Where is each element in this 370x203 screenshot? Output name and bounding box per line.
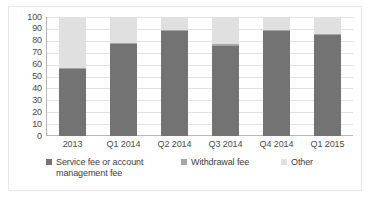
- bar-segment[interactable]: [59, 69, 86, 136]
- legend-item[interactable]: Other: [281, 157, 313, 168]
- x-axis-tick-label: Q2 2014: [149, 139, 200, 150]
- bar-stack: [59, 17, 86, 136]
- y-axis-tick-label: 40: [2, 84, 42, 93]
- bar-group[interactable]: [161, 17, 188, 136]
- bar-segment[interactable]: [314, 34, 341, 35]
- legend-swatch-icon: [181, 159, 187, 165]
- legend-item[interactable]: Service fee or account management fee: [46, 157, 160, 178]
- bar-segment[interactable]: [263, 30, 290, 31]
- y-axis-tick-label: 70: [2, 48, 42, 57]
- bar-segment[interactable]: [212, 44, 239, 45]
- legend-label: Service fee or account management fee: [56, 157, 160, 178]
- legend-swatch-icon: [281, 159, 287, 165]
- bar-group[interactable]: [212, 17, 239, 136]
- bar-stack: [161, 17, 188, 136]
- bar-group[interactable]: [59, 17, 86, 136]
- chart-container: 0102030405060708090100 2013Q1 2014Q2 201…: [0, 0, 370, 203]
- bar-segment[interactable]: [110, 43, 137, 44]
- bar-segment[interactable]: [212, 17, 239, 44]
- y-axis-tick-label: 100: [2, 13, 42, 22]
- bars-layer: [47, 17, 353, 136]
- bar-segment[interactable]: [161, 30, 188, 31]
- bar-segment[interactable]: [110, 44, 137, 136]
- bar-stack: [314, 17, 341, 136]
- y-axis-tick-label: 50: [2, 72, 42, 81]
- bar-group[interactable]: [314, 17, 341, 136]
- bar-segment[interactable]: [59, 68, 86, 69]
- y-axis-tick-label: 30: [2, 96, 42, 105]
- y-axis-tick-label: 10: [2, 120, 42, 129]
- bar-stack: [212, 17, 239, 136]
- x-axis: 2013Q1 2014Q2 2014Q3 2014Q4 2014Q1 2015: [47, 139, 353, 153]
- x-axis-tick-label: Q1 2014: [98, 139, 149, 150]
- x-axis-tick-label: Q1 2015: [302, 139, 353, 150]
- y-axis-tick-label: 60: [2, 60, 42, 69]
- bar-segment[interactable]: [263, 31, 290, 136]
- bar-segment[interactable]: [161, 17, 188, 30]
- legend-label: Withdrawal fee: [191, 157, 249, 168]
- y-axis-tick-label: 80: [2, 36, 42, 45]
- bar-segment[interactable]: [161, 31, 188, 136]
- bar-group[interactable]: [263, 17, 290, 136]
- y-axis-tick-label: 20: [2, 108, 42, 117]
- bar-segment[interactable]: [110, 17, 137, 43]
- y-axis: 0102030405060708090100: [0, 17, 42, 136]
- bar-group[interactable]: [110, 17, 137, 136]
- legend-swatch-icon: [46, 159, 52, 165]
- x-axis-tick-label: Q4 2014: [251, 139, 302, 150]
- x-axis-tick-label: Q3 2014: [200, 139, 251, 150]
- bar-segment[interactable]: [212, 46, 239, 136]
- bar-segment[interactable]: [59, 17, 86, 68]
- bar-segment[interactable]: [263, 17, 290, 30]
- bar-stack: [263, 17, 290, 136]
- chart-legend: Service fee or account management feeWit…: [46, 157, 346, 185]
- legend-label: Other: [291, 157, 313, 168]
- bar-segment[interactable]: [314, 35, 341, 136]
- legend-item[interactable]: Withdrawal fee: [181, 157, 249, 168]
- y-axis-tick-label: 0: [2, 132, 42, 141]
- y-axis-tick-label: 90: [2, 24, 42, 33]
- bar-stack: [110, 17, 137, 136]
- bar-segment[interactable]: [314, 17, 341, 34]
- x-axis-tick-label: 2013: [47, 139, 98, 150]
